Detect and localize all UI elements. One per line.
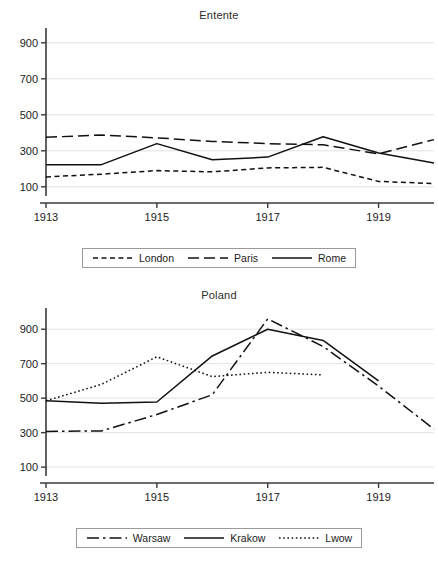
legend-item-krakow[interactable]: Krakow bbox=[183, 532, 265, 544]
chart-title-entente: Entente bbox=[0, 9, 438, 21]
legend-label: Krakow bbox=[230, 532, 265, 544]
chart-panel-entente: Entente 1003005007009001913191519171919 … bbox=[0, 0, 438, 283]
x-tick-label: 1917 bbox=[255, 211, 279, 223]
x-tick-label: 1919 bbox=[366, 211, 390, 223]
y-tick-label: 300 bbox=[20, 427, 38, 439]
y-tick-label: 500 bbox=[20, 109, 38, 121]
x-tick-label: 1915 bbox=[145, 491, 169, 503]
legend-item-rome[interactable]: Rome bbox=[271, 252, 346, 264]
legend-swatch-long-dash-icon bbox=[187, 253, 229, 263]
legend-label: Lwow bbox=[325, 532, 352, 544]
y-tick-label: 300 bbox=[20, 145, 38, 157]
plot-area-entente: 1003005007009001913191519171919 bbox=[0, 22, 438, 237]
chart-svg-poland: 1003005007009001913191519171919 bbox=[0, 302, 438, 517]
legend-swatch-solid-icon bbox=[183, 533, 225, 543]
legend-item-lwow[interactable]: Lwow bbox=[278, 532, 352, 544]
chart-svg-entente: 1003005007009001913191519171919 bbox=[0, 22, 438, 237]
legend-label: Warsaw bbox=[133, 532, 171, 544]
legend-swatch-dotted-icon bbox=[278, 533, 320, 543]
chart-panel-poland: Poland 1003005007009001913191519171919 W… bbox=[0, 283, 438, 566]
legend-item-london[interactable]: London bbox=[92, 252, 174, 264]
legend-swatch-short-dash-icon bbox=[92, 253, 134, 263]
y-tick-label: 700 bbox=[20, 73, 38, 85]
legend-label: Rome bbox=[318, 252, 346, 264]
y-tick-label: 700 bbox=[20, 358, 38, 370]
legend-poland: WarsawKrakowLwow bbox=[0, 528, 438, 548]
y-tick-label: 100 bbox=[20, 461, 38, 473]
x-tick-label: 1913 bbox=[34, 211, 58, 223]
y-tick-label: 900 bbox=[20, 37, 38, 49]
legend-item-paris[interactable]: Paris bbox=[187, 252, 258, 264]
legend-swatch-dash-dot-icon bbox=[86, 533, 128, 543]
series-line-london bbox=[46, 167, 434, 183]
x-tick-label: 1913 bbox=[34, 491, 58, 503]
legend-label: London bbox=[139, 252, 174, 264]
legend-entente: LondonParisRome bbox=[0, 248, 438, 268]
plot-area-poland: 1003005007009001913191519171919 bbox=[0, 302, 438, 517]
y-tick-label: 100 bbox=[20, 181, 38, 193]
x-tick-label: 1917 bbox=[255, 491, 279, 503]
y-tick-label: 500 bbox=[20, 392, 38, 404]
legend-label: Paris bbox=[234, 252, 258, 264]
x-tick-label: 1915 bbox=[145, 211, 169, 223]
legend-item-warsaw[interactable]: Warsaw bbox=[86, 532, 171, 544]
x-tick-label: 1919 bbox=[366, 491, 390, 503]
chart-title-poland: Poland bbox=[0, 289, 438, 301]
legend-swatch-solid-icon bbox=[271, 253, 313, 263]
y-tick-label: 900 bbox=[20, 323, 38, 335]
series-line-krakow bbox=[46, 329, 379, 403]
